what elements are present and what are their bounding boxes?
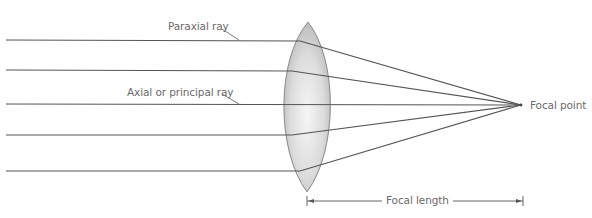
ray-2-incident — [6, 70, 292, 71]
ray-1-incident — [6, 40, 300, 41]
figure-caption-cutoff — [0, 212, 592, 218]
lens-diagram: Paraxial ray Axial or principal ray Foca… — [0, 0, 592, 218]
incident-rays — [6, 40, 521, 171]
paraxial-ray-label: Paraxial ray — [168, 21, 229, 32]
focal-length-label: Focal length — [382, 195, 453, 206]
axial-ray-label: Axial or principal ray — [127, 87, 233, 98]
focal-point-marker — [520, 104, 523, 107]
ray-1-refracted — [300, 41, 521, 105]
lens-diagram-svg — [0, 0, 592, 218]
focal-length-left-arrow — [308, 199, 314, 203]
ray-3-axial — [6, 104, 521, 105]
ray-5-refracted — [300, 105, 521, 171]
focal-length-right-arrow — [516, 199, 522, 203]
focal-point-label: Focal point — [530, 100, 586, 111]
